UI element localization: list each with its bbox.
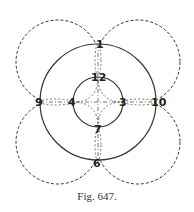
geometric-diagram: 1 12 9 4 3 10 7 6 bbox=[0, 0, 194, 190]
label-7: 7 bbox=[94, 123, 102, 136]
label-12: 12 bbox=[91, 71, 106, 84]
label-1: 1 bbox=[96, 38, 104, 51]
label-9: 9 bbox=[35, 96, 43, 109]
label-4: 4 bbox=[68, 96, 76, 109]
label-10: 10 bbox=[151, 96, 167, 109]
label-3: 3 bbox=[119, 96, 127, 109]
label-6: 6 bbox=[93, 157, 101, 170]
figure-caption: Fig. 647. bbox=[0, 190, 194, 202]
